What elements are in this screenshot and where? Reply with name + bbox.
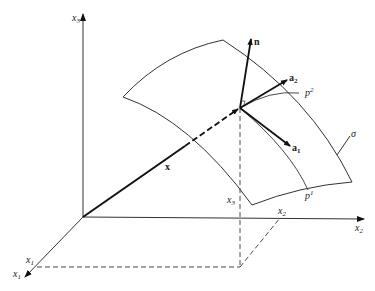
label-tangent-a1: a1 — [292, 142, 301, 155]
surface-diagram: x3 x2 x1 x1 x2 x3 x n a2 a1 p2 p1 σ — [0, 0, 375, 291]
label-x1-projection: x1 — [25, 254, 34, 267]
label-normal-vector: n — [254, 36, 260, 47]
label-surface-sigma: σ — [351, 128, 357, 139]
label-x2-projection: x2 — [277, 205, 286, 218]
position-vector-x — [83, 109, 238, 217]
label-x1-axis: x1 — [12, 268, 21, 281]
tangent-vector-a2 — [240, 80, 287, 108]
label-tangent-a2: a2 — [289, 72, 298, 85]
label-curve-p2: p2 — [304, 86, 314, 98]
tangent-vector-a1 — [240, 108, 290, 146]
label-x2-axis: x2 — [354, 222, 363, 235]
projection-lines — [37, 108, 280, 267]
label-curve-p1: p1 — [304, 189, 314, 201]
normal-vector-n — [240, 39, 251, 108]
label-x3-projection: x3 — [226, 194, 235, 207]
label-x3-axis: x3 — [71, 12, 80, 25]
axis-x2 — [83, 217, 364, 219]
label-position-vector: x — [165, 161, 170, 172]
surface-sigma — [123, 40, 352, 205]
axis-x1 — [25, 217, 83, 277]
